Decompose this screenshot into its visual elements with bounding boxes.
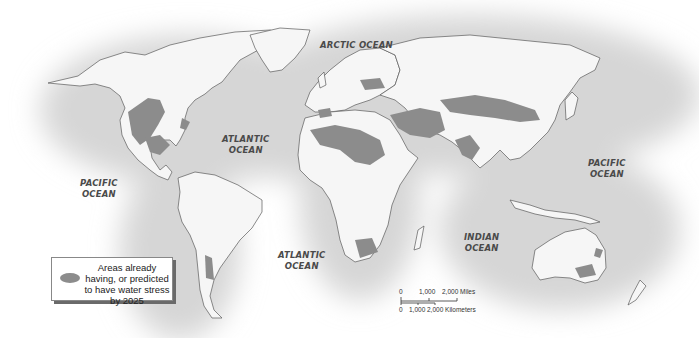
label-line: OCEAN — [80, 189, 118, 200]
ocean-label-atlantic-north: ATLANTIC OCEAN — [222, 134, 269, 156]
ocean-label-indian: INDIAN OCEAN — [464, 232, 499, 254]
label-line: ATLANTIC — [278, 250, 325, 261]
scale-miles-2000: 2,000 Miles — [442, 288, 475, 295]
scale-miles-1000: 1,000 — [419, 288, 435, 295]
label-line: PACIFIC — [588, 158, 626, 169]
gray-ellipse-icon — [60, 273, 80, 283]
label-line: OCEAN — [464, 243, 499, 254]
label-line: OCEAN — [278, 261, 325, 272]
ocean-label-pacific-west: PACIFIC OCEAN — [80, 178, 118, 200]
scale-km-0: 0 — [399, 306, 403, 313]
label-line: PACIFIC — [80, 178, 118, 189]
label-line: OCEAN — [588, 169, 626, 180]
scale-km-1000: 1,000 — [409, 306, 425, 313]
label-line: ATLANTIC — [222, 134, 269, 145]
legend-text: Areas already having, or predicted to ha… — [84, 262, 170, 306]
map-legend: Areas already having, or predicted to ha… — [51, 257, 173, 301]
world-map: ARCTIC OCEAN ATLANTIC OCEAN PACIFIC OCEA… — [0, 0, 699, 338]
ocean-label-pacific-east: PACIFIC OCEAN — [588, 158, 626, 180]
scale-ruler — [400, 297, 460, 305]
ocean-label-atlantic-south: ATLANTIC OCEAN — [278, 250, 325, 272]
scale-bar: 0 1,000 2,000 Miles 0 1,000 2,000 Kilome… — [395, 288, 515, 318]
ocean-label-arctic: ARCTIC OCEAN — [320, 40, 393, 51]
label-line: OCEAN — [222, 145, 269, 156]
scale-miles-0: 0 — [399, 288, 403, 295]
scale-km-2000: 2,000 Kilometers — [427, 306, 476, 313]
label-line: INDIAN — [464, 232, 499, 243]
label-line: ARCTIC OCEAN — [320, 40, 393, 51]
